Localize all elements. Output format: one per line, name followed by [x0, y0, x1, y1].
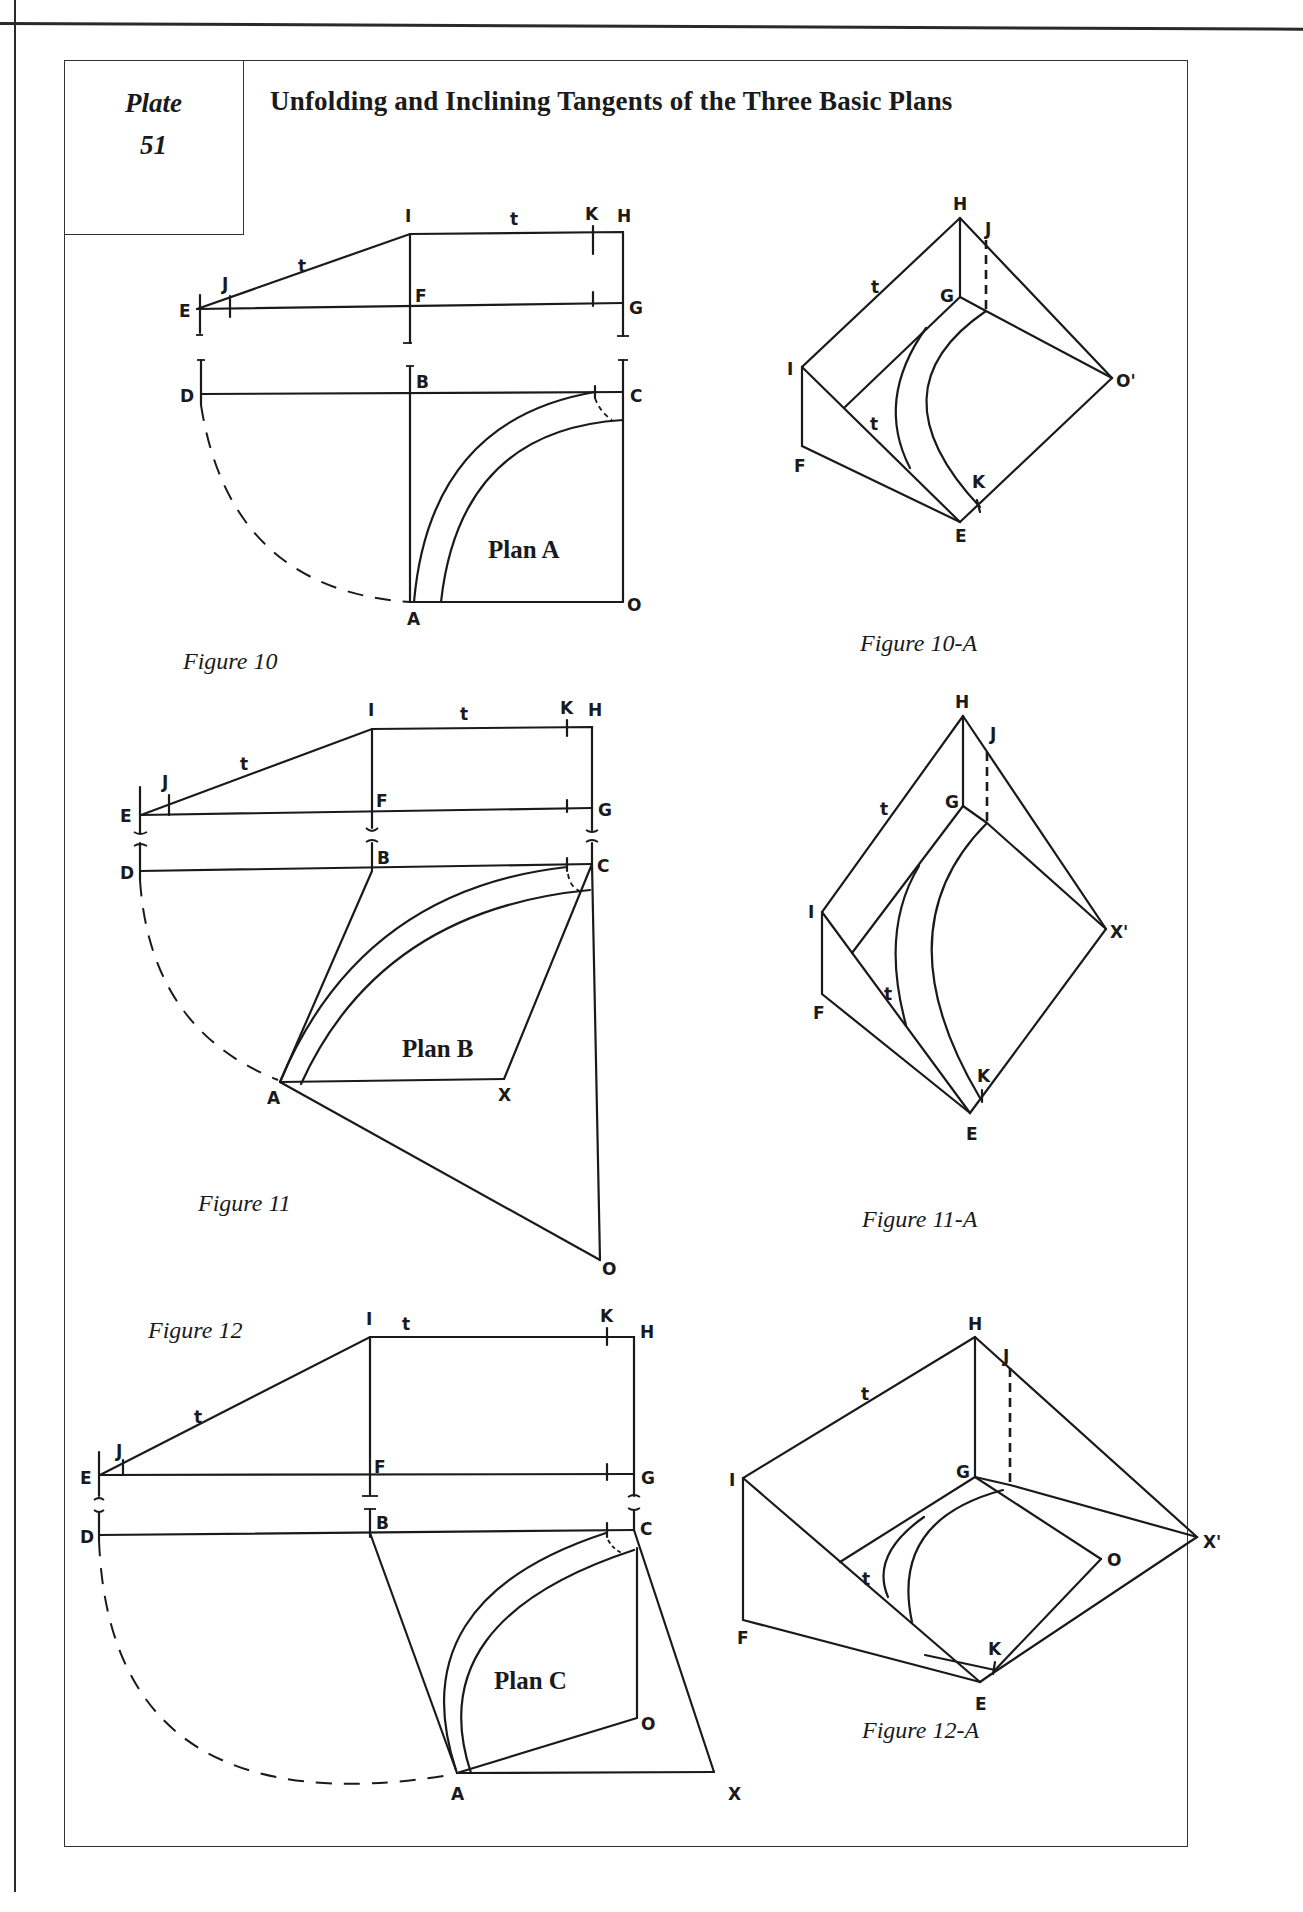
- point-label: O: [1107, 1550, 1121, 1570]
- point-label: F: [737, 1628, 749, 1648]
- point-label: I: [729, 1470, 735, 1490]
- figure-12a-drawing: H J G I t t X' O F K E: [0, 0, 1303, 1912]
- point-label: X': [1203, 1532, 1221, 1552]
- tangent-label: t: [862, 1569, 870, 1589]
- point-label: J: [1002, 1346, 1009, 1366]
- point-label: H: [968, 1314, 982, 1334]
- point-label: K: [988, 1639, 1002, 1659]
- figure-12a-caption: Figure 12-A: [862, 1717, 979, 1744]
- point-label: G: [956, 1462, 970, 1482]
- tangent-label: t: [861, 1384, 869, 1404]
- point-label: E: [975, 1694, 987, 1714]
